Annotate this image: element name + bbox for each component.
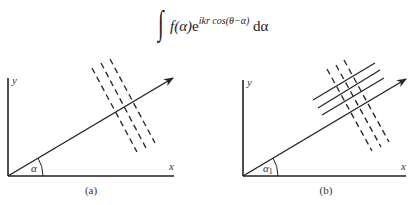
x-axis-label: x — [400, 160, 406, 172]
angle-label: α — [31, 162, 37, 174]
panel-a: y x α (a) — [8, 59, 174, 197]
dashed-wavefronts — [92, 59, 155, 152]
y-axis-label: y — [11, 74, 17, 86]
angle-label: α1 — [263, 162, 273, 176]
caption-a: (a) — [85, 184, 98, 197]
caption-b: (b) — [320, 184, 333, 197]
panel-b: y x α1 (b) — [243, 60, 406, 197]
angle-arc — [273, 158, 278, 176]
diagram-canvas: y x α (a) y x α1 (b) — [0, 0, 417, 205]
x-axis-label: x — [168, 160, 174, 172]
y-axis-label: y — [246, 76, 252, 88]
angle-arc — [38, 158, 43, 176]
